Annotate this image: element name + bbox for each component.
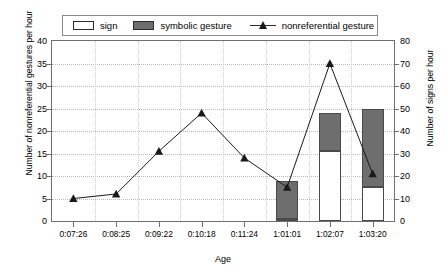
line-marker-triangle bbox=[197, 109, 205, 117]
chart-figure: sign symbolic gesture nonreferential ges… bbox=[0, 0, 446, 278]
vertical-gridline bbox=[266, 41, 267, 221]
y-axis-right-tick-label: 40 bbox=[400, 126, 440, 136]
y-axis-right-tick-label: 80 bbox=[400, 36, 440, 46]
x-axis-tick-mark bbox=[287, 222, 288, 227]
legend-label-nonreferential-gesture: nonreferential gesture bbox=[282, 21, 374, 31]
legend-label-symbolic-gesture: symbolic gesture bbox=[160, 21, 231, 31]
y-axis-left-tick-label: 40 bbox=[7, 36, 47, 46]
y-axis-left-tick-label: 10 bbox=[7, 171, 47, 181]
x-axis-tick-mark bbox=[159, 222, 160, 227]
x-axis-tick-mark bbox=[73, 222, 74, 227]
y-axis-right-tick-label: 70 bbox=[400, 59, 440, 69]
white-square-swatch-icon bbox=[73, 21, 94, 30]
line-triangle-marker-icon bbox=[250, 21, 276, 30]
bar-group bbox=[319, 41, 341, 221]
y-axis-left-tick-label: 25 bbox=[7, 104, 47, 114]
x-axis-tick-mark bbox=[244, 222, 245, 227]
y-axis-left-tick-label: 0 bbox=[7, 216, 47, 226]
line-marker-triangle bbox=[240, 154, 248, 162]
vertical-gridline bbox=[223, 41, 224, 221]
x-axis-tick-mark bbox=[330, 222, 331, 227]
x-axis-tick-mark bbox=[116, 222, 117, 227]
bar-segment-symbolic-gesture bbox=[319, 113, 341, 151]
x-axis-title: Age bbox=[0, 254, 446, 264]
y-axis-right-tick-label: 20 bbox=[400, 171, 440, 181]
bar-segment-sign bbox=[362, 187, 384, 221]
legend-label-sign: sign bbox=[100, 21, 117, 31]
x-axis-tick-label: 1:03:20 bbox=[338, 229, 408, 239]
bar-segment-symbolic-gesture bbox=[276, 181, 298, 219]
y-axis-right-tick-label: 10 bbox=[400, 194, 440, 204]
y-axis-left-tick-label: 15 bbox=[7, 149, 47, 159]
vertical-gridline bbox=[138, 41, 139, 221]
y-axis-left-tick-label: 35 bbox=[7, 59, 47, 69]
legend-item-symbolic-gesture: symbolic gesture bbox=[133, 21, 231, 31]
y-axis-left-title: Number of nonreferential gestures per ho… bbox=[24, 0, 34, 193]
bar-segment-sign bbox=[319, 151, 341, 221]
bar-segment-symbolic-gesture bbox=[362, 109, 384, 188]
bar-group bbox=[276, 41, 298, 221]
bar-segment-sign bbox=[276, 219, 298, 221]
x-axis-tick-mark bbox=[202, 222, 203, 227]
legend-item-sign: sign bbox=[73, 21, 117, 31]
vertical-gridline bbox=[309, 41, 310, 221]
vertical-gridline bbox=[95, 41, 96, 221]
y-axis-right-tick-label: 30 bbox=[400, 149, 440, 159]
vertical-gridline bbox=[180, 41, 181, 221]
y-axis-right-tick-label: 50 bbox=[400, 104, 440, 114]
y-axis-left-tick-label: 5 bbox=[7, 194, 47, 204]
plot-area bbox=[51, 40, 395, 222]
y-axis-right-tick-label: 0 bbox=[400, 216, 440, 226]
chart-legend: sign symbolic gesture nonreferential ges… bbox=[62, 15, 378, 36]
vertical-gridline bbox=[351, 41, 352, 221]
legend-item-nonreferential-gesture: nonreferential gesture bbox=[250, 21, 374, 31]
line-marker-triangle bbox=[112, 190, 120, 198]
y-axis-right-tick-label: 60 bbox=[400, 81, 440, 91]
y-axis-left-tick-label: 20 bbox=[7, 126, 47, 136]
bar-group bbox=[362, 41, 384, 221]
y-axis-left-tick-label: 30 bbox=[7, 81, 47, 91]
x-axis-tick-mark bbox=[373, 222, 374, 227]
gray-square-swatch-icon bbox=[133, 21, 154, 30]
